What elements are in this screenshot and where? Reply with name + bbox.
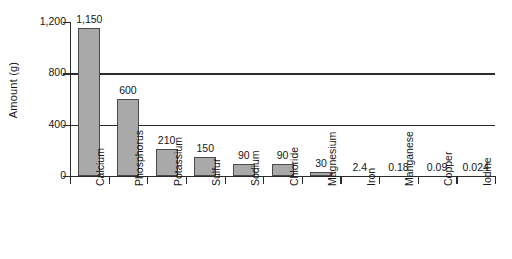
x-category-label: Sulfur bbox=[210, 159, 224, 186]
x-category-label: Chloride bbox=[288, 147, 302, 186]
x-tick-mark bbox=[456, 177, 457, 184]
x-category-label: Iron bbox=[365, 168, 379, 186]
x-category-label: Copper bbox=[442, 152, 456, 186]
y-tick-label: 1,200 bbox=[24, 16, 66, 26]
x-tick-mark bbox=[379, 177, 380, 184]
x-tick-mark bbox=[340, 177, 341, 184]
x-tick-mark bbox=[302, 177, 303, 184]
y-tick-label: 800 bbox=[24, 67, 66, 77]
y-tick-label: 400 bbox=[24, 119, 66, 129]
y-axis-tick-labels: 04008001,200 bbox=[22, 0, 66, 200]
x-tick-mark bbox=[70, 177, 71, 184]
x-category-label: Sodium bbox=[249, 150, 263, 186]
bar-value-label: 1,150 bbox=[63, 14, 115, 25]
x-tick-mark bbox=[109, 177, 110, 184]
x-category-label: Phosphorus bbox=[133, 130, 147, 186]
y-tick-mark bbox=[63, 73, 70, 74]
x-category-label: Potassium bbox=[172, 137, 186, 186]
x-tick-mark bbox=[186, 177, 187, 184]
y-tick-mark bbox=[63, 176, 70, 177]
y-tick-label: 0 bbox=[24, 170, 66, 180]
x-tick-mark bbox=[263, 177, 264, 184]
x-tick-mark bbox=[147, 177, 148, 184]
x-category-label: Iodine bbox=[481, 157, 495, 186]
y-axis-title-text: Amount (g) bbox=[7, 62, 19, 118]
bar-value-label: 600 bbox=[102, 85, 154, 96]
y-tick-mark bbox=[63, 125, 70, 126]
x-tick-mark bbox=[418, 177, 419, 184]
bar-chart: Amount (g) 04008001,200 1,15060021015090… bbox=[0, 0, 512, 259]
x-category-label: Magnesium bbox=[326, 132, 340, 186]
x-tick-mark bbox=[225, 177, 226, 184]
x-category-label: Calcium bbox=[94, 148, 108, 186]
gridline-800 bbox=[70, 73, 495, 74]
x-tick-mark bbox=[495, 177, 496, 184]
x-category-label: Manganese bbox=[403, 131, 417, 186]
